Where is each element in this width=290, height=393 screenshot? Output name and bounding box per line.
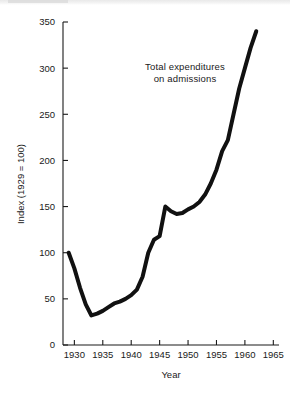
x-axis-title: Year [161,369,180,380]
x-tick-label: 1930 [64,349,85,360]
line-chart: 050100150200250300350 193019351940194519… [0,0,290,393]
y-tick-label: 150 [39,201,55,212]
x-tick-label: 1950 [177,349,198,360]
figure-container: 050100150200250300350 193019351940194519… [0,0,290,393]
series-annotation-line-2: on admissions [154,73,217,84]
x-tick-label: 1935 [92,349,113,360]
y-tick-label: 250 [39,109,55,120]
y-tick-label: 0 [50,339,55,350]
x-tick-label: 1955 [206,349,227,360]
x-tick-label: 1940 [121,349,142,360]
x-tick-label: 1960 [234,349,255,360]
y-tick-label: 50 [44,293,55,304]
x-tick-label: 1965 [263,349,284,360]
x-axis-ticks: 19301935194019451950195519601965 [64,340,284,360]
y-tick-label: 300 [39,63,55,74]
x-tick-label: 1945 [149,349,170,360]
y-tick-label: 100 [39,247,55,258]
y-axis-ticks: 050100150200250300350 [39,16,68,350]
series-annotation-line-1: Total expenditures [145,61,225,72]
y-tick-label: 200 [39,155,55,166]
y-axis-title: Index (1929 = 100) [15,144,26,224]
y-tick-label: 350 [39,16,55,27]
